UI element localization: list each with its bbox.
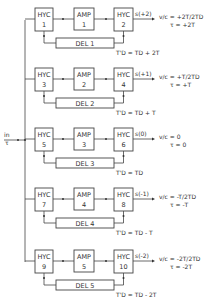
hyc-out-num: 8 [121, 201, 125, 209]
amp-num: 1 [82, 21, 86, 29]
channel-row-4: HYC7AMP4HYC8s(-1)v/c = -T/2TDτ = -TDEL 4… [25, 188, 196, 236]
arrow-icon [43, 35, 45, 37]
channel-row-2: HYC3AMP2HYC4s(+1)v/c = +T/2TDτ = +TDEL 2… [25, 68, 200, 116]
arrow-head-icon [152, 198, 155, 201]
hyc-out-name: HYC [117, 131, 131, 139]
arrow-head-icon [152, 260, 155, 263]
tau-value: τ = -2T [170, 263, 192, 270]
arrow-icon [105, 78, 107, 80]
hyc-out-num: 6 [121, 141, 125, 149]
input-label: in [4, 131, 10, 138]
hyc-out-num: 4 [121, 81, 125, 89]
velocity-ratio: v/c = +T/2TD [159, 73, 200, 80]
delay-name: DEL 4 [76, 220, 95, 228]
arrow-head-icon [152, 18, 155, 21]
amp-name: AMP [77, 191, 91, 199]
arrow-icon [123, 215, 125, 217]
arrow-icon [62, 78, 64, 80]
delay-equation: T'D = TD - T [115, 229, 153, 236]
tau-value: τ = +2T [170, 21, 195, 28]
delay-equation: T'D = TD + T [115, 109, 156, 116]
amp-name: AMP [77, 71, 91, 79]
arrow-icon [105, 260, 107, 262]
amp-num: 2 [82, 81, 86, 89]
velocity-ratio: v/c = -2T/2TD [159, 255, 201, 262]
hyc-out-num: 2 [121, 21, 125, 29]
hyc-in-name: HYC [37, 11, 51, 19]
hyc-in-name: HYC [37, 71, 51, 79]
tau-value: τ = -T [170, 201, 189, 208]
hyc-in-name: HYC [37, 191, 51, 199]
hyc-in-num: 5 [42, 141, 46, 149]
delay-name: DEL 3 [76, 160, 95, 168]
output-signal-label: s(0) [135, 130, 147, 137]
delay-equation: T'D = TD [115, 169, 143, 176]
hyc-in-name: HYC [37, 253, 51, 261]
channel-row-3: HYC5AMP3HYC6s(0)v/c = 0τ = 0DEL 3T'D = T… [25, 128, 186, 176]
arrow-icon [123, 35, 125, 37]
output-signal-label: s(+2) [135, 10, 152, 17]
hyc-out-num: 10 [119, 263, 127, 271]
arrow-icon [62, 260, 64, 262]
output-signal-label: s(-1) [135, 190, 149, 197]
arrow-icon [43, 155, 45, 157]
amp-num: 4 [82, 201, 86, 209]
delay-equation: T'D = TD - 2T [115, 291, 157, 298]
amp-name: AMP [77, 11, 91, 19]
output-signal-label: s(-2) [135, 252, 149, 259]
hyc-out-name: HYC [117, 71, 131, 79]
channel-row-1: HYC1AMP1HYC2s(+2)v/c = +2T/2TDτ = +2TDEL… [25, 8, 204, 56]
hyc-in-name: HYC [37, 131, 51, 139]
arrow-icon [105, 18, 107, 20]
delay-name: DEL 2 [76, 100, 95, 108]
delay-equation: T'D = TD + 2T [115, 49, 160, 56]
arrow-head-icon [152, 78, 155, 81]
input-node: in τ [4, 20, 26, 262]
arrow-icon [123, 95, 125, 97]
hyc-in-num: 9 [42, 263, 46, 271]
output-signal-label: s(+1) [135, 70, 152, 77]
block-diagram: in τ HYC1AMP1HYC2s(+2)v/c = +2T/2TDτ = +… [0, 0, 212, 305]
arrow-icon [62, 138, 64, 140]
arrow-icon [17, 139, 19, 141]
velocity-ratio: v/c = +2T/2TD [159, 13, 204, 20]
delay-name: DEL 1 [76, 40, 95, 48]
hyc-in-num: 7 [42, 201, 46, 209]
arrow-icon [43, 277, 45, 279]
arrow-icon [43, 95, 45, 97]
channel-row-5: HYC9AMP5HYC10s(-2)v/c = -2T/2TDτ = -2TDE… [25, 250, 201, 298]
hyc-out-name: HYC [117, 253, 131, 261]
arrow-head-icon [152, 138, 155, 141]
arrow-icon [123, 277, 125, 279]
velocity-ratio: v/c = 0 [159, 133, 181, 140]
hyc-in-num: 3 [42, 81, 46, 89]
arrow-icon [123, 155, 125, 157]
hyc-out-name: HYC [117, 11, 131, 19]
amp-num: 3 [82, 141, 86, 149]
tau-value: τ = 0 [170, 141, 186, 148]
amp-num: 5 [82, 263, 86, 271]
velocity-ratio: v/c = -T/2TD [159, 193, 196, 200]
amp-name: AMP [77, 253, 91, 261]
tau-value: τ = +T [170, 81, 191, 88]
arrow-icon [105, 198, 107, 200]
arrow-icon [62, 198, 64, 200]
arrow-icon [43, 215, 45, 217]
arrow-icon [62, 18, 64, 20]
amp-name: AMP [77, 131, 91, 139]
delay-name: DEL 5 [76, 282, 95, 290]
arrow-icon [105, 138, 107, 140]
hyc-out-name: HYC [117, 191, 131, 199]
hyc-in-num: 1 [42, 21, 46, 29]
